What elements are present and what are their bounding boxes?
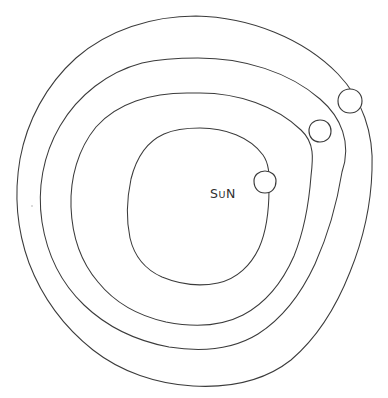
sketch-canvas: SUN bbox=[0, 0, 388, 398]
sun-label-u: U bbox=[219, 189, 227, 200]
orbit-ring-1-innermost bbox=[127, 128, 269, 285]
planet-inner bbox=[254, 171, 276, 193]
planet-middle bbox=[309, 120, 331, 142]
planet-outer bbox=[338, 89, 362, 113]
orbit-ring-3 bbox=[40, 58, 345, 349]
paper-speck bbox=[31, 205, 33, 207]
sun-label-n: N bbox=[226, 186, 236, 201]
sun-label: SUN bbox=[210, 186, 236, 201]
sun-label-s: S bbox=[210, 186, 219, 201]
orbit-ring-4-outermost bbox=[17, 16, 372, 386]
solar-system-diagram: SUN bbox=[0, 0, 388, 398]
